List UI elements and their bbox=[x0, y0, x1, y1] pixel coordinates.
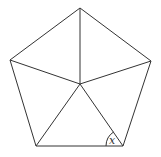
spoke-upper-left bbox=[10, 60, 80, 84]
spoke-upper-right bbox=[80, 61, 151, 84]
pentagon-diagram: x bbox=[0, 0, 161, 157]
spoke-bottom-left bbox=[36, 84, 80, 146]
angle-label: x bbox=[109, 134, 116, 147]
spoke-bottom-right bbox=[80, 84, 123, 146]
